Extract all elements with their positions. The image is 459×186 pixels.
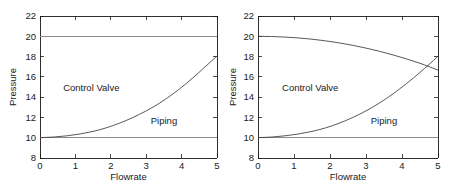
y-tick-label: 22	[25, 10, 36, 21]
x-tick-label: 4	[399, 160, 404, 171]
chart-panel-right: 8 10 12 14 16 18 20 22 0 1 2 3 4 5	[229, 0, 458, 186]
y-tick-label: 14	[25, 91, 36, 102]
x-tick-labels: 0 1 2 3 4 5	[37, 160, 219, 171]
x-axis-title: Flowrate	[330, 171, 366, 182]
y-tick-label: 20	[243, 31, 254, 42]
x-tick-label: 4	[179, 160, 184, 171]
y-tick-label: 18	[25, 51, 36, 62]
x-tick-labels: 0 1 2 3 4 5	[255, 160, 440, 171]
y-tick-label: 8	[31, 152, 36, 163]
x-tick-label: 3	[363, 160, 368, 171]
x-tick-label: 2	[108, 160, 113, 171]
y-axis-title: Pressure	[229, 68, 238, 106]
x-tick-label: 1	[73, 160, 78, 171]
figure-container: 8 10 12 14 16 18 20 22 0 1 2 3 4 5	[0, 0, 459, 186]
y-tick-label: 16	[25, 71, 36, 82]
y-tick-label: 8	[249, 152, 254, 163]
y-axis-title: Pressure	[7, 68, 18, 106]
x-tick-label: 5	[435, 160, 440, 171]
plot-area-right: 8 10 12 14 16 18 20 22 0 1 2 3 4 5	[229, 10, 441, 182]
y-tick-label: 20	[25, 31, 36, 42]
x-axis-title: Flowrate	[110, 171, 146, 182]
chart-svg-left: 8 10 12 14 16 18 20 22 0 1 2 3 4 5	[0, 0, 229, 186]
plot-area-left: 8 10 12 14 16 18 20 22 0 1 2 3 4 5	[7, 10, 220, 182]
x-tick-label: 0	[37, 160, 42, 171]
y-tick-label: 10	[243, 132, 254, 143]
region-label-control-valve: Control Valve	[282, 82, 338, 93]
chart-svg-right: 8 10 12 14 16 18 20 22 0 1 2 3 4 5	[229, 0, 458, 186]
x-tick-label: 2	[327, 160, 332, 171]
chart-panel-left: 8 10 12 14 16 18 20 22 0 1 2 3 4 5	[0, 0, 229, 186]
x-tick-label: 3	[144, 160, 149, 171]
y-tick-label: 16	[243, 71, 254, 82]
region-label-piping: Piping	[371, 115, 397, 126]
region-label-piping: Piping	[151, 115, 177, 126]
y-tick-label: 12	[25, 112, 36, 123]
y-tick-label: 18	[243, 51, 254, 62]
y-tick-label: 22	[243, 10, 254, 21]
y-tick-label: 10	[25, 132, 36, 143]
y-tick-label: 14	[243, 91, 254, 102]
y-tick-labels: 8 10 12 14 16 18 20 22	[25, 10, 36, 163]
y-tick-label: 12	[243, 112, 254, 123]
x-tick-label: 0	[255, 160, 260, 171]
x-tick-label: 5	[214, 160, 219, 171]
y-tick-labels: 8 10 12 14 16 18 20 22	[243, 10, 254, 163]
region-label-control-valve: Control Valve	[63, 82, 119, 93]
x-tick-label: 1	[291, 160, 296, 171]
